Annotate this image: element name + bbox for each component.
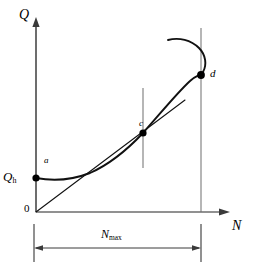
nmax-base: N — [101, 227, 109, 241]
tangent-chord-from-origin — [36, 100, 185, 212]
chart-figure: Q N 0 Qh a c d Nmax — [0, 0, 257, 274]
point-label-c: c — [139, 119, 143, 128]
data-point-markers — [32, 71, 205, 181]
n-max-dimension-label: Nmax — [101, 228, 122, 240]
marker-point-d — [197, 71, 205, 79]
y-axis-value-label-qh: Qh — [3, 170, 16, 183]
chart-canvas — [0, 0, 257, 274]
y-axis-arrowhead — [32, 17, 39, 27]
x-axis-arrowhead — [219, 208, 230, 215]
point-label-a: a — [44, 156, 49, 165]
nmax-subscript: max — [109, 233, 122, 242]
marker-point-a — [32, 174, 39, 181]
dimension-arrowhead-right — [192, 245, 201, 250]
x-axis-label: N — [232, 219, 241, 233]
characteristic-curve — [36, 39, 205, 180]
dimension-arrowhead-left — [34, 245, 43, 250]
qh-subscript: h — [12, 176, 16, 185]
point-label-d: d — [210, 68, 216, 79]
origin-label: 0 — [24, 203, 30, 214]
y-axis-label: Q — [19, 8, 29, 22]
qh-base: Q — [3, 169, 12, 184]
marker-point-c — [139, 129, 146, 136]
reference-lines — [143, 28, 201, 212]
